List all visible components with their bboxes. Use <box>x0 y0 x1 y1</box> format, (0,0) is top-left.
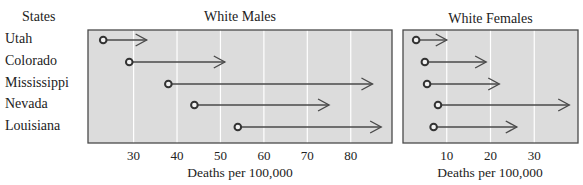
x-tick-label: 20 <box>484 148 497 164</box>
x-tick-label: 10 <box>440 148 453 164</box>
start-marker-icon <box>165 81 172 88</box>
start-marker-icon <box>126 59 133 66</box>
start-marker-icon <box>191 102 198 109</box>
panel-white-males <box>88 30 392 143</box>
start-marker-icon <box>100 37 107 44</box>
x-tick-label: 40 <box>171 148 184 164</box>
x-tick-label: 70 <box>301 148 314 164</box>
x-axis-label-females: Deaths per 100,000 <box>437 165 542 181</box>
start-marker-icon <box>430 124 437 131</box>
start-marker-icon <box>422 59 429 66</box>
x-tick-label: 30 <box>528 148 541 164</box>
start-marker-icon <box>235 124 242 131</box>
start-marker-icon <box>424 81 431 88</box>
start-marker-icon <box>435 102 442 109</box>
start-marker-icon <box>413 37 420 44</box>
x-tick-label: 30 <box>127 148 140 164</box>
x-tick-label: 60 <box>257 148 270 164</box>
x-axis-label-males: Deaths per 100,000 <box>187 165 292 181</box>
x-tick-label: 80 <box>344 148 357 164</box>
x-tick-label: 50 <box>214 148 227 164</box>
panel-white-females <box>403 30 578 143</box>
